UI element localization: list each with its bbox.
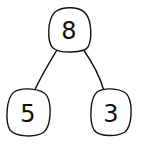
edge-top-to-left xyxy=(34,50,57,92)
node-left-label: 5 xyxy=(20,100,35,128)
number-bond-diagram: 8 5 3 xyxy=(0,0,142,146)
node-top: 8 xyxy=(49,8,91,52)
node-right-label: 3 xyxy=(103,100,118,128)
node-left: 5 xyxy=(7,89,50,136)
node-top-label: 8 xyxy=(61,17,76,45)
node-right: 3 xyxy=(91,89,131,136)
edge-top-to-right xyxy=(83,49,104,91)
